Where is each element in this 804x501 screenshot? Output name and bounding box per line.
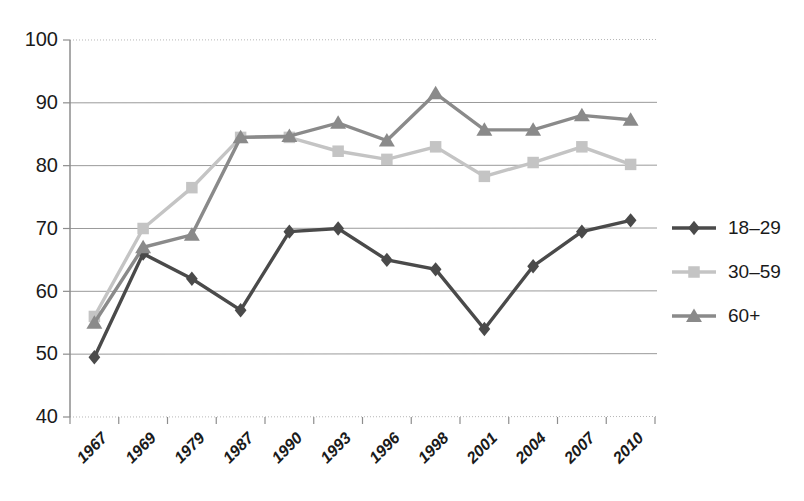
y-tick-label-40: 40: [36, 405, 58, 427]
gridline-90: [70, 102, 657, 103]
legend-label: 18–29: [728, 217, 781, 238]
y-tick-label-60: 60: [36, 280, 58, 302]
data-point: [430, 141, 442, 153]
data-point: [186, 182, 198, 194]
data-point: [332, 145, 344, 157]
gridline-50: [70, 354, 657, 355]
legend-label: 30–59: [728, 261, 781, 282]
data-point: [527, 157, 539, 169]
y-tick-label-50: 50: [36, 342, 58, 364]
data-point: [381, 154, 393, 166]
y-tick-label-90: 90: [36, 91, 58, 113]
chart-canvas: 100908070605040 196719691979198719901993…: [0, 0, 804, 501]
chart-background: [0, 0, 804, 501]
line-chart: 100908070605040 196719691979198719901993…: [0, 0, 804, 501]
gridline-60: [70, 291, 657, 292]
y-tick-label-70: 70: [36, 217, 58, 239]
data-point: [576, 141, 588, 153]
legend-label: 60+: [728, 305, 760, 326]
gridline-80: [70, 165, 657, 166]
gridline-70: [70, 228, 657, 229]
y-tick-label-100: 100: [25, 28, 58, 50]
legend-marker-square-icon: [688, 266, 700, 278]
y-tick-label-80: 80: [36, 154, 58, 176]
data-point: [137, 223, 149, 235]
data-point: [479, 171, 491, 183]
data-point: [625, 159, 637, 171]
